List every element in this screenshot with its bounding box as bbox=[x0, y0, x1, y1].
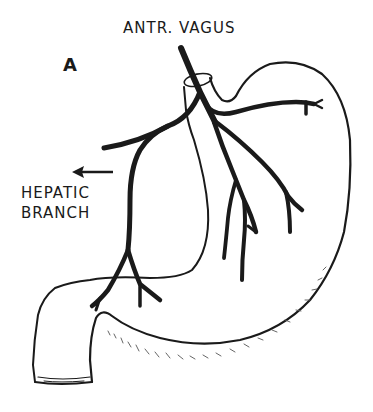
anterior-vagus-label: ANTR. VAGUS bbox=[123, 19, 236, 37]
arrow-left-icon bbox=[72, 166, 113, 178]
hepatic-label-line1: HEPATIC bbox=[21, 183, 90, 203]
hepatic-label-line2: BRANCH bbox=[21, 203, 90, 223]
hepatic-branch-label: HEPATIC BRANCH bbox=[21, 183, 90, 223]
vagus-nerve bbox=[92, 48, 322, 310]
vagus-stomach-diagram: ANTR. VAGUS A HEPATIC BRANCH bbox=[0, 0, 373, 412]
hepatic-branch-nerve bbox=[104, 126, 168, 148]
panel-letter: A bbox=[63, 54, 77, 75]
